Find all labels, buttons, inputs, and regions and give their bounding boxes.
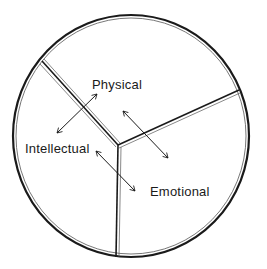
arrow-physical-emotional-icon <box>123 111 168 158</box>
outer-circle <box>13 15 249 257</box>
spoke-right <box>118 90 240 148</box>
spoke-bottom <box>116 145 121 257</box>
label-intellectual: Intellectual <box>25 142 90 155</box>
label-physical: Physical <box>92 78 142 91</box>
arrow-intellectual-emotional-icon <box>96 151 135 191</box>
label-emotional: Emotional <box>150 185 210 198</box>
spoke-upper-left <box>40 59 120 147</box>
diagram-canvas <box>0 0 267 269</box>
